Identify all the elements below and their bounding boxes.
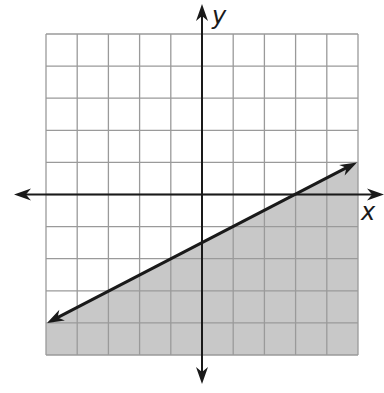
x-axis-label: x [360, 198, 376, 226]
coordinate-plane: y x [0, 0, 384, 393]
y-axis-label: y [211, 2, 227, 30]
